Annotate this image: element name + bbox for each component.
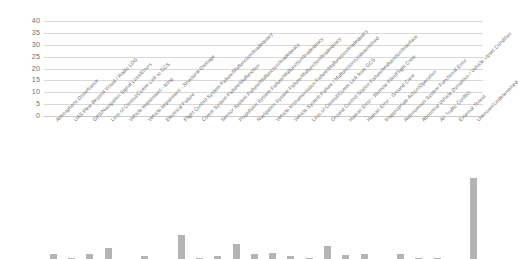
y-axis-tick: 35 — [26, 29, 40, 36]
y-axis-tick: 20 — [26, 65, 40, 72]
y-axis-tick: 40 — [26, 17, 40, 24]
y-axis-tick: 0 — [26, 112, 40, 119]
y-axis-tick: 30 — [26, 41, 40, 48]
y-axis-tick-labels: 0510152025303540 — [26, 0, 40, 259]
y-axis-tick: 5 — [26, 101, 40, 108]
y-axis-tick: 25 — [26, 53, 40, 60]
y-axis-tick: 10 — [26, 89, 40, 96]
y-axis-tick: 15 — [26, 77, 40, 84]
x-axis-category-labels: Atmospheric DisturbanceUAS Flew Beyond V… — [44, 0, 483, 259]
